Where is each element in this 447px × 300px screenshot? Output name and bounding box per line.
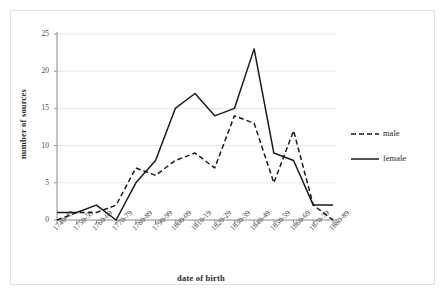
y-tick-label: 5 [23, 178, 49, 187]
plot-area [11, 11, 436, 286]
legend-label-female: female [383, 153, 406, 163]
series-line-male [57, 116, 333, 220]
legend-swatch-female [351, 154, 379, 164]
y-tick-label: 0 [23, 215, 49, 224]
y-tick-label: 25 [23, 29, 49, 38]
legend-label-male: male [383, 128, 400, 138]
y-tick-label: 15 [23, 103, 49, 112]
y-tick-label: 10 [23, 141, 49, 150]
chart-figure: number of sources date of birth 05101520… [10, 10, 435, 285]
y-tick-label: 20 [23, 66, 49, 75]
legend-swatch-male [351, 129, 379, 139]
